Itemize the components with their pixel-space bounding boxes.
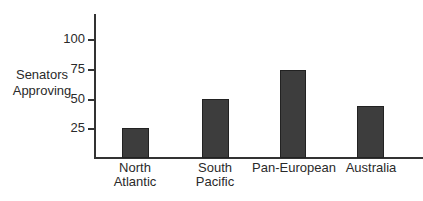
bar-north-atlantic: [122, 128, 149, 158]
x-category-label: North Atlantic: [105, 161, 165, 189]
y-tick-label: 50: [45, 92, 85, 106]
bar-australia: [357, 106, 384, 158]
y-tick-75: [88, 69, 94, 71]
y-tick-25: [88, 128, 94, 130]
category-line: South: [185, 161, 245, 175]
bar-south-pacific: [202, 99, 229, 158]
category-line: Atlantic: [105, 175, 165, 189]
y-tick-100: [88, 39, 94, 41]
bar-pan-european: [280, 70, 306, 158]
category-line: North: [105, 161, 165, 175]
x-category-label: South Pacific: [185, 161, 245, 189]
category-line: Australia: [335, 161, 407, 175]
y-tick-50: [88, 99, 94, 101]
y-axis-line: [94, 14, 96, 158]
x-category-label: Pan-European: [248, 161, 340, 175]
category-line: Pacific: [185, 175, 245, 189]
x-category-label: Australia: [335, 161, 407, 175]
y-tick-label: 25: [45, 121, 85, 135]
category-line: Pan-European: [248, 161, 340, 175]
y-tick-label: 75: [45, 62, 85, 76]
y-tick-label: 100: [45, 32, 85, 46]
